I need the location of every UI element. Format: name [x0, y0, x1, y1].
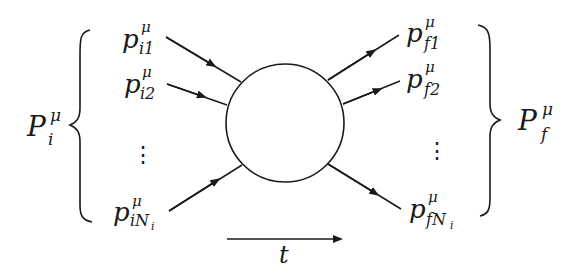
incoming-ellipsis: ⋮ [132, 142, 154, 167]
final-total-momentum-label: P μ f [517, 99, 553, 144]
svg-text:P: P [517, 104, 538, 137]
outgoing-line-2 [343, 81, 400, 104]
svg-text:p: p [406, 18, 423, 48]
initial-brace [70, 30, 92, 222]
svg-text:i1: i1 [139, 39, 154, 58]
interaction-vertex [226, 64, 344, 182]
svg-text:p: p [406, 64, 423, 94]
scattering-diagram: t P μ i P μ f p μ i1 p μ i2 ⋮ p μ iN i p… [0, 0, 583, 276]
svg-text:fN: fN [425, 210, 447, 229]
incoming-line-2 [167, 84, 227, 105]
incoming-label-1: p μ i1 [122, 18, 154, 58]
svg-text:p: p [122, 24, 139, 54]
incoming-line-1 [166, 37, 241, 82]
final-brace [478, 25, 500, 216]
outgoing-ellipsis: ⋮ [426, 138, 448, 163]
svg-text:iN: iN [130, 211, 150, 230]
svg-text:μ: μ [141, 18, 151, 36]
svg-text:μ: μ [50, 105, 61, 125]
time-label: t [279, 241, 289, 269]
svg-text:i: i [48, 129, 53, 149]
incoming-line-n [169, 165, 242, 211]
incoming-label-n: p μ iN i [113, 192, 155, 233]
svg-text:f: f [539, 124, 550, 144]
outgoing-line-n [328, 164, 401, 209]
svg-text:μ: μ [425, 13, 435, 31]
svg-text:p: p [409, 194, 426, 224]
svg-text:i2: i2 [140, 84, 155, 103]
svg-text:p: p [113, 197, 130, 227]
svg-text:μ: μ [425, 58, 435, 76]
svg-text:P: P [26, 110, 47, 143]
outgoing-line-1 [328, 35, 399, 80]
outgoing-label-n: p μ fN i [409, 188, 454, 232]
initial-total-momentum-label: P μ i [26, 105, 61, 149]
svg-text:i: i [151, 220, 155, 233]
outgoing-label-1: p μ f1 [406, 13, 440, 53]
svg-text:μ: μ [542, 99, 553, 119]
svg-text:μ: μ [428, 188, 438, 206]
svg-text:μ: μ [132, 192, 142, 210]
svg-text:μ: μ [142, 63, 152, 81]
svg-text:f1: f1 [423, 34, 440, 53]
svg-text:p: p [124, 69, 141, 99]
svg-text:f2: f2 [423, 80, 440, 99]
outgoing-label-2: p μ f2 [406, 58, 440, 99]
incoming-label-2: p μ i2 [124, 63, 155, 103]
svg-text:i: i [450, 219, 454, 232]
